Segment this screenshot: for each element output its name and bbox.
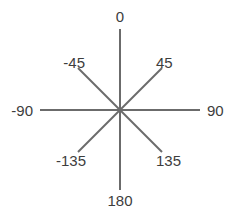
- label-angle-45: 45: [156, 55, 173, 70]
- label-angle-135: 135: [156, 153, 181, 168]
- angle-convention-diagram: 0 45 90 135 180 -135 -90 -45: [0, 0, 232, 221]
- ray-neg135: [78, 110, 120, 152]
- compass-rays: [0, 0, 232, 221]
- label-angle-90: 90: [207, 103, 224, 118]
- label-angle-neg45: -45: [63, 55, 85, 70]
- label-angle-neg90: -90: [11, 103, 33, 118]
- ray-135: [120, 110, 162, 152]
- label-angle-neg135: -135: [56, 153, 86, 168]
- ray-45: [120, 68, 162, 110]
- label-angle-0: 0: [116, 9, 124, 24]
- ray-neg45: [78, 68, 120, 110]
- label-angle-180: 180: [107, 193, 132, 208]
